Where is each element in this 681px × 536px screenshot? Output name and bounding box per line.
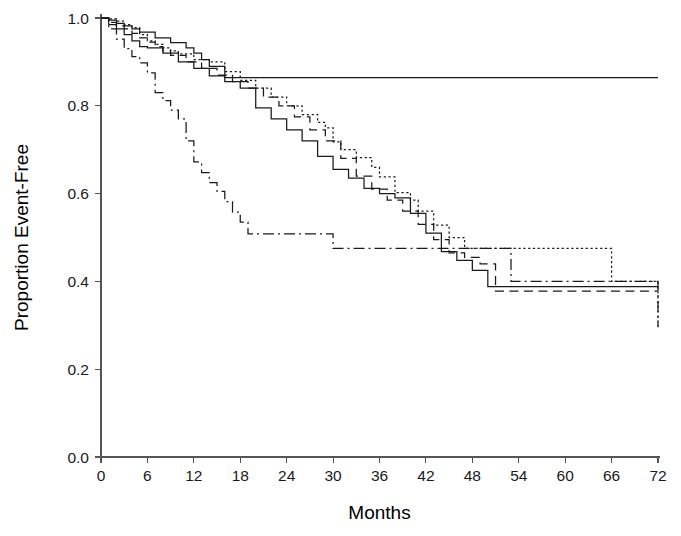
x-tick-label: 30 <box>324 467 342 484</box>
x-axis-title: Months <box>348 502 410 523</box>
kaplan-meier-figure: 0.00.20.40.60.81.00612182430364248546066… <box>0 0 681 536</box>
y-tick-label: 0.8 <box>67 97 89 114</box>
x-tick-label: 18 <box>232 467 249 484</box>
axis-labels-group: 0.00.20.40.60.81.00612182430364248546066… <box>11 10 667 524</box>
x-tick-label: 12 <box>185 467 202 484</box>
x-tick-label: 54 <box>510 467 528 484</box>
x-tick-label: 48 <box>464 467 481 484</box>
y-tick-label: 0.0 <box>67 449 89 466</box>
y-tick-label: 0.2 <box>67 361 89 378</box>
x-tick-label: 36 <box>371 467 388 484</box>
curves-group <box>101 18 658 327</box>
y-tick-label: 0.6 <box>67 185 89 202</box>
x-tick-label: 42 <box>417 467 434 484</box>
dashed-curve <box>101 18 658 291</box>
solid-step-curve <box>101 18 658 287</box>
x-tick-label: 72 <box>649 467 666 484</box>
x-tick-label: 6 <box>143 467 152 484</box>
survival-plot: 0.00.20.40.60.81.00612182430364248546066… <box>0 0 681 536</box>
x-tick-label: 60 <box>557 467 575 484</box>
axes-group <box>95 14 660 463</box>
x-tick-label: 0 <box>97 467 106 484</box>
solid-flat-curve <box>101 18 658 78</box>
x-tick-label: 66 <box>603 467 620 484</box>
y-tick-label: 0.4 <box>67 273 89 290</box>
x-tick-label: 24 <box>278 467 296 484</box>
y-tick-label: 1.0 <box>67 10 89 27</box>
y-axis-title: Proportion Event-Free <box>11 144 32 331</box>
